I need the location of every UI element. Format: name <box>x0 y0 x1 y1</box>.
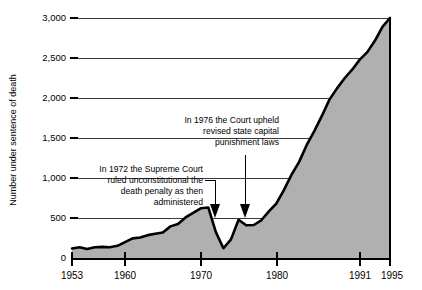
annotation-1972-line-2: ruled unconstitutional the <box>107 175 203 185</box>
y-tick-label-2500: 2,500 <box>42 52 66 63</box>
y-tick-label-0: 0 <box>61 252 66 263</box>
x-tick-label-1995: 1995 <box>381 270 404 281</box>
x-tick-label-1980: 1980 <box>266 270 289 281</box>
annotation-1972-line-1: In 1972 the Supreme Court <box>99 164 203 174</box>
annotation-1976-arrowhead-icon <box>240 204 250 218</box>
x-tick-label-1953: 1953 <box>61 270 84 281</box>
annotation-1972-leader-line <box>205 180 215 205</box>
annotation-1976-line-1: In 1976 the Court upheld <box>184 115 279 125</box>
x-axis-tick-labels: 1953 1960 1970 1980 1991 1995 <box>61 270 404 281</box>
y-axis-title-text: Number under sentence of death <box>8 74 18 206</box>
x-tick-label-1960: 1960 <box>114 270 137 281</box>
annotation-1976-line-2: revised state capital <box>203 126 279 136</box>
y-tick-label-1000: 1,000 <box>42 172 66 183</box>
x-tick-label-1991: 1991 <box>349 270 372 281</box>
y-tick-label-1500: 1,500 <box>42 132 66 143</box>
y-axis-tick-labels: 3,000 2,500 2,000 1,500 1,000 500 0 <box>42 12 66 263</box>
y-tick-label-3000: 3,000 <box>42 12 66 23</box>
annotation-1972-line-3: death penalty as then <box>121 186 203 196</box>
y-axis-tick-marks <box>70 18 78 218</box>
x-tick-label-1970: 1970 <box>190 270 213 281</box>
chart-container: Number under sentence of death 3,000 2,5… <box>0 0 422 290</box>
annotation-1972-line-4: administered <box>154 197 203 207</box>
y-tick-label-2000: 2,000 <box>42 92 66 103</box>
annotation-1976-line-3: punishment laws <box>215 137 279 147</box>
y-axis-title: Number under sentence of death <box>8 74 18 206</box>
death-sentence-area-chart: Number under sentence of death 3,000 2,5… <box>0 0 422 290</box>
y-tick-label-500: 500 <box>50 212 66 223</box>
